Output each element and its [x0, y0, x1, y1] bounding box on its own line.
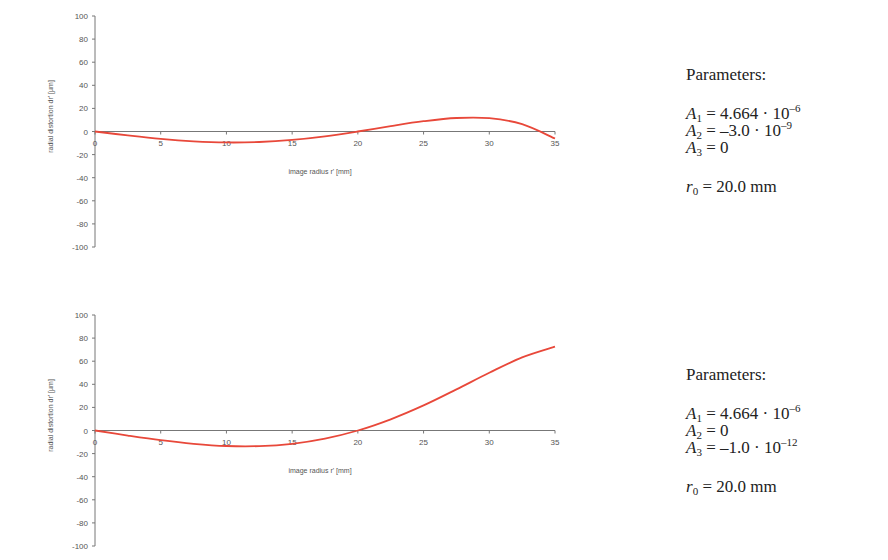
x-tick-label: 15	[288, 438, 297, 447]
y-tick-label: 40	[79, 81, 88, 90]
y-tick-label: 0	[84, 427, 89, 436]
y-tick-label: 20	[79, 403, 88, 412]
y-tick-label: -60	[76, 496, 88, 505]
y-axis-title: radial distortion dr' [µm]	[47, 379, 55, 452]
x-tick-label: 0	[93, 438, 98, 447]
y-tick-label: -20	[76, 450, 88, 459]
chart-svg: 100806040200-20-40-60-80-100051015202530…	[0, 0, 600, 260]
y-tick-label: -80	[76, 220, 88, 229]
chart-svg: 100806040200-20-40-60-80-100051015202530…	[0, 299, 600, 559]
x-tick-label: 30	[485, 438, 494, 447]
parameters-heading: Parameters:	[686, 366, 800, 383]
y-tick-label: -40	[76, 174, 88, 183]
y-axis-title: radial distortion dr' [µm]	[47, 80, 55, 153]
y-tick-label: 80	[79, 35, 88, 44]
x-tick-label: 25	[419, 438, 428, 447]
y-tick-label: 0	[84, 128, 89, 137]
param-a3: A3 = –1.0 · 10–12	[686, 439, 800, 456]
param-a3: A3 = 0	[686, 139, 800, 156]
parameters-panel-2: Parameters: A1 = 4.664 · 10–6 A2 = 0 A3 …	[686, 366, 800, 495]
y-tick-label: -100	[72, 243, 89, 252]
x-tick-label: 0	[93, 139, 98, 148]
y-tick-label: -40	[76, 473, 88, 482]
y-tick-label: -20	[76, 151, 88, 160]
x-tick-label: 30	[485, 139, 494, 148]
x-tick-label: 35	[551, 438, 560, 447]
param-a1: A1 = 4.664 · 10–6	[686, 405, 800, 422]
x-tick-label: 5	[158, 438, 163, 447]
x-axis-title: image radius r' [mm]	[288, 168, 351, 176]
param-r0: r0 = 20.0 mm	[686, 478, 800, 495]
x-tick-label: 25	[419, 139, 428, 148]
parameters-heading: Parameters:	[686, 66, 800, 83]
y-tick-label: 100	[75, 311, 89, 320]
y-tick-label: 20	[79, 104, 88, 113]
y-tick-label: 80	[79, 334, 88, 343]
param-a2: A2 = –3.0 · 10–9	[686, 122, 800, 139]
y-tick-label: 40	[79, 380, 88, 389]
distortion-chart-1: 100806040200-20-40-60-80-100051015202530…	[0, 0, 600, 260]
x-tick-label: 20	[353, 139, 362, 148]
y-tick-label: 60	[79, 357, 88, 366]
x-tick-label: 20	[353, 438, 362, 447]
y-tick-label: -100	[72, 542, 89, 551]
x-tick-label: 35	[551, 139, 560, 148]
param-r0: r0 = 20.0 mm	[686, 178, 800, 195]
parameters-panel-1: Parameters: A1 = 4.664 · 10–6 A2 = –3.0 …	[686, 66, 800, 195]
distortion-chart-2: 100806040200-20-40-60-80-100051015202530…	[0, 299, 600, 559]
x-axis-title: image radius r' [mm]	[288, 467, 351, 475]
y-tick-label: -80	[76, 519, 88, 528]
y-tick-label: 100	[75, 12, 89, 21]
y-tick-label: 60	[79, 58, 88, 67]
y-tick-label: -60	[76, 197, 88, 206]
distortion-curve	[95, 347, 555, 447]
